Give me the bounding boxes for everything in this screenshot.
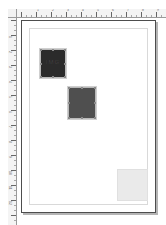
ruler-tick-minor: [14, 70, 16, 71]
ruler-tick-minor: [101, 15, 102, 17]
ruler-label-vertical: 2: [8, 51, 12, 53]
ruler-tick-minor: [14, 105, 16, 106]
ruler-label-vertical: 11: [8, 186, 12, 190]
ruler-label-horizontal: 6: [112, 9, 114, 13]
resize-handle-s[interactable]: [81, 117, 83, 119]
ruler-tick-minor: [46, 15, 47, 17]
resize-handle-sw[interactable]: [40, 76, 42, 78]
resize-handle-e[interactable]: [64, 63, 66, 65]
ruler-tick-minor: [14, 55, 16, 56]
ruler-label-vertical: 9: [8, 156, 12, 158]
ruler-tick-minor: [26, 15, 27, 17]
ruler-label-vertical: 3: [8, 66, 12, 68]
resize-handle-s[interactable]: [52, 76, 54, 78]
resize-handle-n[interactable]: [52, 49, 54, 51]
ruler-label-vertical: 8: [8, 141, 12, 143]
ruler-tick-minor: [151, 15, 152, 17]
resize-handle-w[interactable]: [68, 102, 70, 104]
ruler-tick-minor: [14, 220, 16, 221]
ruler-tick-minor: [14, 30, 16, 31]
ruler-label-horizontal: 2: [52, 9, 54, 13]
ruler-tick-minor: [106, 15, 107, 17]
layout-editor-canvas: 123456789 123456789101112 IMG: [0, 0, 166, 225]
frame-placeholder-glyph: IMG: [41, 59, 65, 65]
pasteboard[interactable]: IMG: [17, 18, 166, 225]
ruler-label-horizontal: 5: [97, 9, 99, 13]
ruler-tick-minor: [76, 15, 77, 17]
ruler-tick-major: [21, 12, 22, 17]
ruler-label-vertical: 6: [8, 111, 12, 113]
ruler-tick-minor: [14, 45, 16, 46]
ruler-tick-minor: [14, 195, 16, 196]
ruler-label-horizontal: 3: [67, 9, 69, 13]
ruler-label-vertical: 5: [8, 96, 12, 98]
ruler-tick-minor: [14, 85, 16, 86]
ruler-label-horizontal: 4: [82, 9, 84, 13]
ruler-tick-minor: [161, 15, 162, 17]
document-page[interactable]: IMG: [21, 20, 156, 213]
ruler-tick-minor: [14, 180, 16, 181]
ruler-tick-minor: [121, 15, 122, 17]
ruler-tick-minor: [41, 15, 42, 17]
ruler-tick-minor: [14, 100, 16, 101]
image-frame-medium[interactable]: [68, 87, 96, 119]
resize-handle-e[interactable]: [94, 102, 96, 104]
image-frame-dark[interactable]: IMG: [40, 49, 66, 78]
ruler-label-vertical: 10: [8, 171, 12, 175]
image-frame-light[interactable]: [117, 169, 148, 201]
ruler-tick-minor: [14, 120, 16, 121]
ruler-tick-minor: [116, 15, 117, 17]
ruler-tick-minor: [131, 15, 132, 17]
ruler-tick-minor: [56, 15, 57, 17]
ruler-tick-minor: [14, 160, 16, 161]
ruler-label-vertical: 12: [8, 201, 12, 205]
resize-handle-ne[interactable]: [64, 49, 66, 51]
vertical-ruler[interactable]: 123456789101112: [8, 18, 17, 225]
ruler-label-vertical: 1: [8, 36, 12, 38]
ruler-tick-minor: [71, 15, 72, 17]
ruler-tick-minor: [14, 175, 16, 176]
resize-handle-ne[interactable]: [94, 87, 96, 89]
ruler-origin-corner[interactable]: [8, 9, 17, 18]
ruler-tick-minor: [14, 115, 16, 116]
ruler-tick-minor: [14, 205, 16, 206]
ruler-label-vertical: 7: [8, 126, 12, 128]
ruler-tick-minor: [14, 145, 16, 146]
ruler-tick-minor: [14, 60, 16, 61]
ruler-tick-minor: [14, 25, 16, 26]
ruler-tick-minor: [14, 135, 16, 136]
ruler-tick-minor: [14, 190, 16, 191]
ruler-tick-major: [11, 215, 16, 216]
ruler-label-horizontal: 7: [127, 9, 129, 13]
resize-handle-n[interactable]: [81, 87, 83, 89]
ruler-tick-minor: [136, 15, 137, 17]
resize-handle-se[interactable]: [94, 117, 96, 119]
ruler-tick-minor: [31, 15, 32, 17]
ruler-label-horizontal: 9: [157, 9, 159, 13]
resize-handle-nw[interactable]: [40, 49, 42, 51]
resize-handle-se[interactable]: [64, 76, 66, 78]
ruler-tick-minor: [14, 90, 16, 91]
ruler-tick-minor: [91, 15, 92, 17]
ruler-label-horizontal: 8: [142, 9, 144, 13]
resize-handle-w[interactable]: [40, 63, 42, 65]
ruler-tick-minor: [14, 210, 16, 211]
horizontal-ruler[interactable]: 123456789: [17, 9, 166, 18]
ruler-tick-minor: [14, 40, 16, 41]
ruler-tick-minor: [86, 15, 87, 17]
ruler-tick-minor: [14, 165, 16, 166]
resize-handle-sw[interactable]: [68, 117, 70, 119]
ruler-tick-major: [11, 20, 16, 21]
ruler-tick-minor: [14, 150, 16, 151]
ruler-tick-minor: [14, 130, 16, 131]
ruler-label-horizontal: 1: [37, 9, 39, 13]
ruler-tick-minor: [146, 15, 147, 17]
ruler-label-vertical: 4: [8, 81, 12, 83]
ruler-tick-minor: [61, 15, 62, 17]
ruler-tick-minor: [14, 75, 16, 76]
resize-handle-nw[interactable]: [68, 87, 70, 89]
